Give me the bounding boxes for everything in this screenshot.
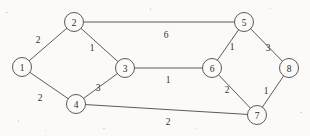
- edge-weight-label: 3: [266, 43, 271, 53]
- edge-weight-label: 6: [164, 30, 169, 40]
- graph-node-label: 6: [210, 64, 215, 74]
- edge-weight-label: 2: [225, 85, 230, 95]
- graph-edge: [84, 74, 118, 99]
- graph-canvas: 12345678 22163121321: [0, 0, 310, 136]
- graph-node-label: 1: [20, 63, 25, 73]
- graph-node-label: 5: [242, 18, 247, 28]
- node-layer: 12345678: [13, 13, 299, 125]
- scan-speckle: [6, 12, 8, 13]
- edge-weight-label: 1: [230, 42, 235, 52]
- edge-weight-label: 1: [90, 43, 95, 53]
- edge-weight-label: 1: [166, 75, 171, 85]
- graph-node-label: 7: [255, 111, 260, 121]
- scan-speckle: [150, 8, 151, 10]
- edge-weight-label: 3: [96, 83, 101, 93]
- weighted-graph-figure: 12345678 22163121321: [0, 0, 310, 136]
- edge-weight-label: 2: [38, 93, 43, 103]
- graph-node-label: 3: [123, 64, 128, 74]
- graph-edge: [85, 105, 247, 115]
- graph-node-label: 8: [287, 64, 292, 74]
- scan-speckle: [103, 128, 105, 129]
- edge-weight-label: 1: [264, 86, 269, 96]
- scan-speckle: [45, 130, 46, 131]
- graph-edge: [30, 72, 68, 98]
- graph-node-label: 4: [74, 100, 79, 110]
- graph-edge: [81, 28, 118, 61]
- scan-speckle: [300, 112, 302, 113]
- edge-weight-label: 2: [36, 35, 41, 45]
- scan-speckle: [270, 8, 271, 9]
- edge-weight-label: 2: [166, 117, 171, 127]
- scan-speckle: [196, 128, 197, 129]
- graph-edge: [219, 75, 251, 108]
- scan-speckle: [18, 120, 19, 122]
- graph-edge: [217, 30, 238, 60]
- graph-node-label: 2: [72, 18, 77, 28]
